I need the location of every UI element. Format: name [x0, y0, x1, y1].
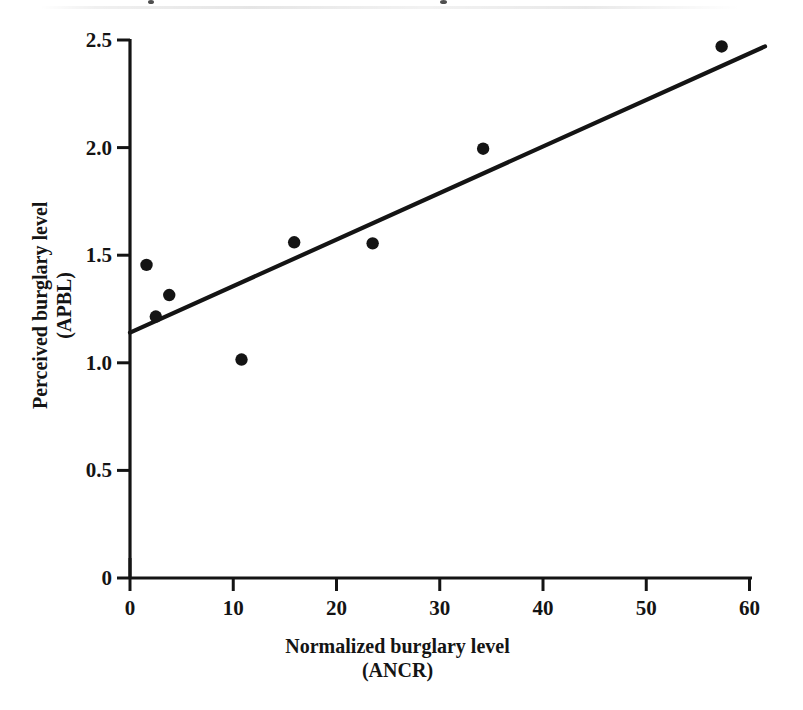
x-tick-label: 40: [533, 598, 554, 619]
data-point: [288, 236, 300, 248]
x-tick-label: 20: [326, 598, 347, 619]
data-point: [715, 40, 727, 52]
data-point: [150, 310, 162, 322]
x-tick-label: 10: [223, 598, 244, 619]
y-tick-label: 0.5: [40, 460, 112, 481]
data-point: [366, 237, 378, 249]
x-axis-title-line-2: (ANCR): [0, 658, 795, 682]
data-point: [477, 142, 489, 154]
regression-line: [130, 46, 765, 332]
x-axis-title-line-1: Normalized burglary level: [0, 634, 795, 658]
x-tick-label: 30: [429, 598, 450, 619]
y-tick-label: 2.5: [40, 30, 112, 51]
x-tick-label: 50: [636, 598, 657, 619]
plot-canvas: [0, 0, 803, 710]
data-point: [163, 289, 175, 301]
burglary-scatter-figure: 2.5 2.0 1.5 1.0 0.5 0 0 10 20 30 40 50 6…: [0, 0, 803, 710]
x-axis-title: Normalized burglary level (ANCR): [0, 634, 795, 683]
x-tick-label: 60: [739, 598, 760, 619]
x-tick-label: 0: [125, 598, 136, 619]
y-axis-title-line-1: Perceived burglary level: [28, 202, 52, 409]
y-tick-label: 0: [40, 568, 112, 589]
y-axis-title: Perceived burglary level (APBL): [28, 202, 77, 409]
y-axis-title-line-2: (APBL): [52, 202, 76, 409]
y-tick-label: 2.0: [40, 137, 112, 158]
data-point: [235, 353, 247, 365]
data-point: [140, 259, 152, 271]
